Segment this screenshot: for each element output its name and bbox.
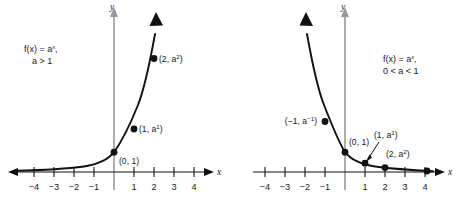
x-tick-label: 3 [171,182,176,192]
x-tick-label: 1 [362,182,367,192]
point-label-x2: (2, a2) [386,148,410,159]
x-axis-label: x [216,167,222,177]
x-tick-label: 2 [151,182,156,192]
point-label-origin: (0, 1) [119,156,139,166]
equation-line-1: f(x) = ax, [24,43,58,54]
x-tick-label: −2 [69,182,79,192]
equation-line-2: a > 1 [32,56,52,66]
point-marker-origin [342,149,349,156]
point-marker-x4 [424,168,431,175]
chart-panel-growth: −4 −3 −2 −1 1 2 3 4 y x (0, 1) (1, a1) (… [0,0,232,197]
x-tick-label: −1 [89,182,99,192]
point-label-x1: (1, a1) [374,129,398,140]
x-axis [253,168,445,176]
y-axis [110,7,118,190]
x-tick-label: 4 [422,182,427,192]
x-tick-label: −4 [260,182,270,192]
point-marker-x1 [131,126,138,133]
x-tick-label: −3 [49,182,59,192]
x-tick-label: 3 [402,182,407,192]
exponential-functions-figure: −4 −3 −2 −1 1 2 3 4 y x (0, 1) (1, a1) (… [0,0,463,197]
x-axis-label: x [447,167,453,177]
x-tick-label: −2 [300,182,310,192]
point-label-origin: (0, 1) [349,137,369,147]
decay-curve [300,12,434,171]
x-tick-label: 1 [131,182,136,192]
y-axis-label: y [109,2,115,12]
equation-line-2: 0 < a < 1 [383,66,419,76]
growth-curve [16,12,163,171]
point-label-x2: (2, a2) [159,53,183,64]
y-axis-label: y [340,2,346,12]
point-label-x1: (1, a1) [139,123,163,134]
x-tick-label: 4 [191,182,196,192]
x-tick-label: −4 [29,182,39,192]
x-tick-label: −3 [280,182,290,192]
equation-line-1: f(x) = ax, [383,53,417,64]
x-tick-label: 2 [382,182,387,192]
y-axis [341,7,349,190]
point-marker-x2 [382,164,389,171]
point-marker-origin [111,149,118,156]
chart-panel-decay: −4 −3 −2 −1 1 2 3 4 y x [231,0,463,197]
point-label-xneg1: (−1, a−1) [285,115,317,126]
point-marker-x2 [151,55,158,62]
x-tick-label: −1 [320,182,330,192]
point-marker-xneg1 [322,118,329,125]
